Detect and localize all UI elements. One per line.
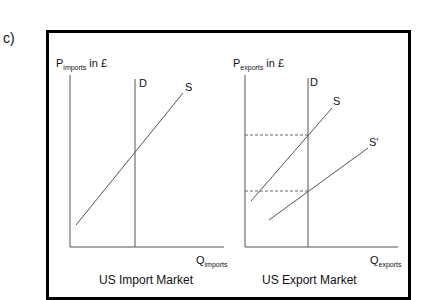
export-market-graph: Pexports in £ D S S' Qexports US Export … [233,57,402,287]
export-demand-label: D [310,76,318,88]
import-y-axis-label: Pimports in £ [56,57,107,72]
export-y-axis-label: Pexports in £ [233,57,284,72]
import-demand-label: D [139,77,147,89]
export-supply-curve [251,108,332,201]
export-x-axis-label: Qexports [370,254,402,269]
import-market-title: US Import Market [99,273,194,287]
import-market-graph: Pimports in £ D S Qimports US Import Mar… [56,57,228,287]
import-supply-curve [76,93,183,225]
import-x-axis-label: Qimports [196,254,228,269]
import-supply-label: S [185,81,192,93]
export-supply-label: S [333,95,340,107]
export-supply-shifted-curve [269,148,368,220]
export-supply-shifted-label: S' [369,136,378,148]
export-market-title: US Export Market [262,273,357,287]
